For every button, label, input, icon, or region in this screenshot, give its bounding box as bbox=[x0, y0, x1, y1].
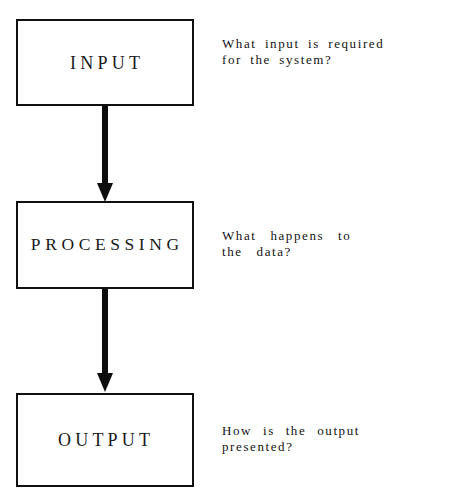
arrow-shaft bbox=[102, 289, 108, 375]
annotation-input: What input is required for the system? bbox=[222, 36, 452, 67]
annotation-processing: What happens to the data? bbox=[222, 228, 452, 259]
annotation-output-line-1: How is the output bbox=[222, 423, 452, 439]
annotation-output: How is the output presented? bbox=[222, 423, 452, 454]
arrow-shaft bbox=[102, 106, 108, 185]
arrow-head-down-icon bbox=[97, 183, 113, 202]
flowchart-node-processing[interactable]: PROCESSING bbox=[16, 201, 194, 289]
arrow-input-to-processing bbox=[97, 106, 113, 202]
annotation-processing-line-1: What happens to bbox=[222, 228, 452, 244]
flowchart-node-input[interactable]: INPUT bbox=[16, 19, 194, 106]
node-label-processing: PROCESSING bbox=[26, 236, 184, 254]
node-label-input: INPUT bbox=[66, 54, 144, 72]
annotation-input-line-2: for the system? bbox=[222, 52, 452, 68]
flowchart-canvas: INPUT PROCESSING OUTPUT What input is re… bbox=[0, 0, 452, 496]
annotation-input-line-1: What input is required bbox=[222, 36, 452, 52]
flowchart-node-output[interactable]: OUTPUT bbox=[16, 393, 194, 487]
arrow-processing-to-output bbox=[97, 289, 113, 394]
arrow-head-down-icon bbox=[97, 373, 113, 392]
annotation-output-line-2: presented? bbox=[222, 439, 452, 455]
node-label-output: OUTPUT bbox=[54, 431, 154, 449]
annotation-processing-line-2: the data? bbox=[222, 244, 452, 260]
